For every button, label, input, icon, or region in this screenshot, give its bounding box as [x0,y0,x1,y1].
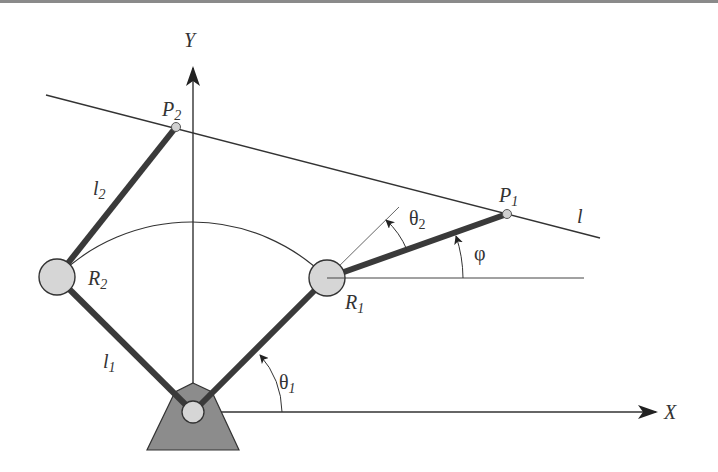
l2-label: l2 [93,177,106,202]
base-pivot [182,401,204,423]
manipulator-diagram: Y X P2 P1 l l2 l1 R2 R1 θ1 θ2 φ [0,0,718,472]
phi-label: φ [474,242,486,265]
l1-label: l1 [103,350,116,375]
joint-r2 [39,259,75,295]
end-point-p1 [503,210,512,219]
theta2-arc [386,220,407,250]
end-point-p2 [172,123,181,132]
p1-label: P1 [498,184,518,209]
p2-label: P2 [161,98,181,123]
y-axis-label: Y [184,29,197,51]
r1-label: R1 [344,291,364,316]
x-axis-label: X [663,401,677,423]
theta2-label: θ2 [409,207,426,232]
line-l [46,95,600,238]
link-l1-left [57,277,193,412]
link-l1-right [193,278,327,412]
link-l2-left [57,127,176,277]
phi-arc [456,236,463,278]
line-l-label: l [577,205,583,227]
r2-label: R2 [87,267,107,292]
theta1-label: θ1 [279,371,296,396]
